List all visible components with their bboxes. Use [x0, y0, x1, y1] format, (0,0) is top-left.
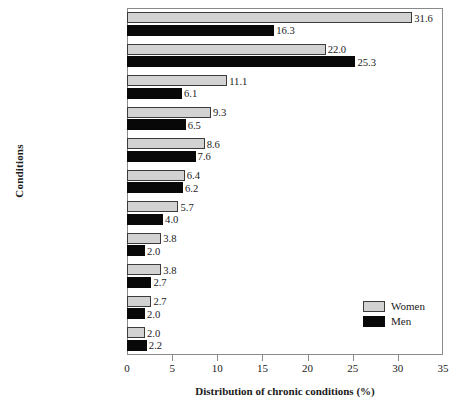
bar-value-label: 3.8 [163, 233, 176, 244]
bar-men: 6.2 [127, 182, 183, 193]
bar-women: 2.0 [127, 327, 145, 338]
x-axis-title: Distribution of chronic conditions (%) [127, 385, 443, 397]
bar-value-label: 2.7 [153, 296, 166, 307]
bar-men: 2.0 [127, 308, 145, 319]
bar-value-label: 6.1 [184, 88, 197, 99]
x-axis-tick [353, 355, 354, 361]
bar-women: 31.6 [127, 12, 412, 23]
x-axis-tick [262, 355, 263, 361]
bar-value-label: 9.3 [213, 107, 226, 118]
x-axis-tick [308, 355, 309, 361]
bar-value-label: 6.4 [187, 170, 200, 181]
bar-value-label: 8.6 [207, 138, 220, 149]
legend-swatch-women-icon [363, 301, 385, 312]
x-axis-tick-label: 25 [333, 362, 373, 374]
bar-men: 2.7 [127, 277, 151, 288]
bar-value-label: 11.1 [229, 75, 247, 86]
x-axis-tick [172, 355, 173, 361]
x-axis-tick [398, 355, 399, 361]
bar-women: 8.6 [127, 138, 205, 149]
bar-value-label: 6.5 [188, 119, 201, 130]
legend-label-men: Men [391, 315, 411, 327]
x-axis-tick [217, 355, 218, 361]
x-axis-tick-label: 0 [107, 362, 147, 374]
bar-women: 5.7 [127, 201, 178, 212]
bar-value-label: 2.0 [147, 245, 160, 256]
bar-men: 4.0 [127, 214, 163, 225]
bar-value-label: 2.2 [149, 340, 162, 351]
bar-value-label: 2.0 [147, 308, 160, 319]
bar-value-label: 7.6 [198, 151, 211, 162]
x-axis-tick-label: 30 [378, 362, 418, 374]
bar-women: 6.4 [127, 170, 185, 181]
bar-value-label: 6.2 [185, 182, 198, 193]
bar-women: 22.0 [127, 44, 326, 55]
bar-women: 2.7 [127, 296, 151, 307]
bar-men: 6.5 [127, 119, 186, 130]
bar-men: 25.3 [127, 56, 355, 67]
bar-men: 16.3 [127, 25, 274, 36]
x-axis-tick-label: 20 [288, 362, 328, 374]
x-axis-tick-label: 15 [242, 362, 282, 374]
legend: Women Men [363, 300, 425, 330]
legend-swatch-men-icon [363, 316, 385, 327]
bar-men: 2.2 [127, 340, 147, 351]
bar-value-label: 5.7 [180, 201, 193, 212]
bar-men: 7.6 [127, 151, 196, 162]
legend-item-men: Men [363, 315, 425, 327]
x-axis-tick-label: 10 [197, 362, 237, 374]
bar-men: 6.1 [127, 88, 182, 99]
bar-value-label: 4.0 [165, 214, 178, 225]
bar-women: 11.1 [127, 75, 227, 86]
x-axis-tick-label: 35 [423, 362, 462, 374]
legend-item-women: Women [363, 300, 425, 312]
bar-value-label: 3.8 [163, 264, 176, 275]
bar-women: 3.8 [127, 264, 161, 275]
bar-value-label: 2.0 [147, 327, 160, 338]
bar-value-label: 2.7 [153, 277, 166, 288]
legend-label-women: Women [391, 300, 425, 312]
bar-value-label: 25.3 [357, 56, 376, 67]
bar-value-label: 22.0 [328, 44, 347, 55]
bar-women: 9.3 [127, 107, 211, 118]
bar-men: 2.0 [127, 245, 145, 256]
bar-value-label: 16.3 [276, 25, 295, 36]
bar-women: 3.8 [127, 233, 161, 244]
y-axis-title: Conditions [13, 121, 25, 221]
x-axis-tick-label: 5 [152, 362, 192, 374]
bar-value-label: 31.6 [414, 12, 433, 23]
chart-root: Conditions Arthritis/rheumatism31.616.3H… [0, 0, 462, 411]
